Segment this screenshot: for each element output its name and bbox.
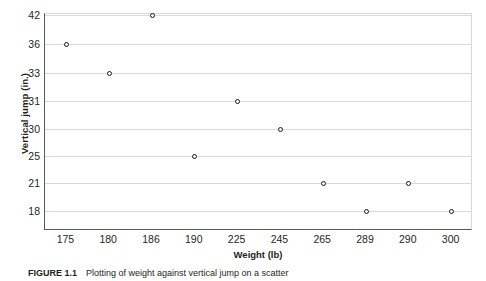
x-axis-tick-label: 265: [313, 234, 331, 245]
x-axis-tick-label: 290: [399, 234, 417, 245]
x-axis-tick-labels: 175180186190225245265289290300: [44, 234, 472, 248]
x-axis-tick-label: 245: [271, 234, 289, 245]
x-axis-tick-label: 300: [442, 234, 460, 245]
figure-caption-text: Plotting of weight against vertical jump…: [86, 268, 289, 278]
data-point: [449, 209, 454, 214]
data-point: [406, 181, 411, 186]
plot-area: 4236333130252118: [44, 13, 472, 230]
gridline: [45, 156, 471, 157]
y-axis-title: Vertical jump (in.): [19, 34, 30, 194]
x-axis-tick-label: 289: [356, 234, 374, 245]
y-axis-tick-label: 31: [28, 96, 40, 107]
data-point: [107, 71, 112, 76]
gridline: [45, 129, 471, 130]
x-axis-tick-label: 225: [228, 234, 246, 245]
data-point: [364, 209, 369, 214]
x-axis-tick-label: 190: [185, 234, 203, 245]
y-axis-tick-label: 25: [28, 151, 40, 162]
x-axis-tick-label: 186: [142, 234, 160, 245]
gridline: [45, 15, 471, 16]
gridline: [45, 211, 471, 212]
x-axis-tick-label: 180: [99, 234, 117, 245]
y-axis-tick-label: 33: [28, 68, 40, 79]
y-axis-tick-label: 36: [28, 39, 40, 50]
data-point: [278, 127, 283, 132]
y-axis-tick-label: 42: [28, 10, 40, 21]
gridline: [45, 101, 471, 102]
figure-container: Vertical jump (in.) 4236333130252118 175…: [0, 0, 486, 281]
data-point: [192, 154, 197, 159]
x-axis-tick-label: 175: [57, 234, 75, 245]
figure-caption-label: FIGURE 1.1: [28, 268, 77, 278]
y-axis-tick-label: 30: [28, 124, 40, 135]
figure-caption: FIGURE 1.1Plotting of weight against ver…: [28, 268, 478, 279]
y-axis-tick-label: 18: [28, 206, 40, 217]
x-axis-title: Weight (lb): [44, 249, 472, 260]
data-point: [235, 99, 240, 104]
data-point: [321, 181, 326, 186]
data-point: [150, 13, 155, 18]
data-point: [64, 42, 69, 47]
gridline: [45, 44, 471, 45]
y-axis-tick-label: 21: [28, 178, 40, 189]
